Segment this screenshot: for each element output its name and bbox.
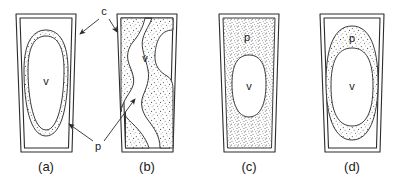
panel-d-vacuole-label: v	[349, 80, 355, 92]
panel-b-vacuole-label: v	[142, 52, 148, 64]
panel-d: p v (d)	[320, 14, 384, 174]
cell-wall-leader-left	[80, 19, 99, 34]
panel-c: p v (c)	[219, 14, 279, 174]
figure-container: v (a) v (b) p v (c) p v	[0, 0, 399, 181]
panel-b-caption: (b)	[139, 159, 155, 174]
panel-a-vacuole-label: v	[43, 75, 49, 87]
cell-wall-leader-right	[109, 19, 117, 32]
panel-a-caption: (a)	[38, 159, 54, 174]
panel-c-vacuole-label: v	[246, 80, 252, 92]
annotation-cell-wall: c	[80, 5, 117, 34]
panel-c-caption: (c)	[241, 159, 256, 174]
panel-d-caption: (d)	[344, 159, 360, 174]
cell-diagram-svg: v (a) v (b) p v (c) p v	[0, 0, 399, 181]
cell-wall-label: c	[101, 5, 107, 17]
panel-d-protoplast-label: p	[349, 32, 355, 44]
protoplast-label: p	[95, 140, 101, 152]
panel-c-protoplast-label: p	[244, 31, 250, 43]
panel-a: v (a)	[16, 14, 76, 174]
panel-b: v (b)	[117, 14, 177, 174]
